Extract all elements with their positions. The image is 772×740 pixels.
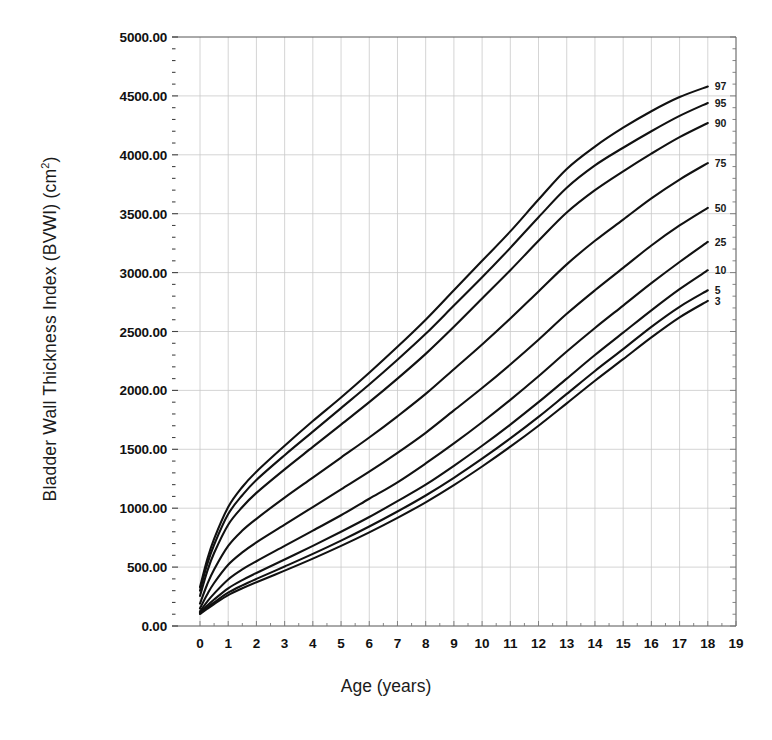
percentile-label-95: 95 bbox=[715, 97, 726, 109]
x-axis-title: Age (years) bbox=[0, 676, 772, 697]
percentile-label-3: 3 bbox=[715, 295, 721, 307]
percentile-label-75: 75 bbox=[715, 157, 726, 169]
percentile-label-10: 10 bbox=[715, 264, 726, 276]
grid-lines bbox=[172, 37, 736, 626]
percentile-label-97: 97 bbox=[715, 80, 726, 92]
chart-figure: Bladder Wall Thickness Index (BVWI) (cm2… bbox=[0, 0, 772, 740]
percentile-label-50: 50 bbox=[715, 202, 726, 214]
percentile-label-90: 90 bbox=[715, 117, 726, 129]
percentile-label-25: 25 bbox=[715, 236, 726, 248]
plot-area bbox=[0, 0, 772, 740]
